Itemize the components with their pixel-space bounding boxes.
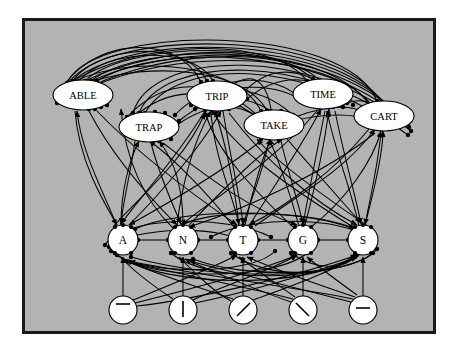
letter-node-label: G bbox=[299, 234, 307, 246]
diagram-panel: ABLE TRAP TRIP TAKE TIME bbox=[22, 18, 436, 334]
letter-node-label: T bbox=[239, 234, 246, 246]
letter-node-g[interactable]: G bbox=[288, 225, 318, 255]
feature-node-horizontal-bar-upper[interactable] bbox=[109, 296, 137, 324]
word-node-label: TAKE bbox=[260, 120, 287, 131]
word-node-time[interactable]: TIME bbox=[293, 79, 353, 109]
letter-node-a[interactable]: A bbox=[108, 225, 138, 255]
interactive-activation-diagram: ABLE TRAP TRIP TAKE TIME bbox=[0, 0, 458, 351]
feature-nodes bbox=[109, 296, 377, 324]
word-node-trap[interactable]: TRAP bbox=[119, 112, 179, 142]
word-node-trip[interactable]: TRIP bbox=[187, 81, 247, 111]
feature-node-back-slash[interactable] bbox=[289, 296, 317, 324]
word-node-label: TIME bbox=[310, 89, 336, 100]
letter-node-label: S bbox=[360, 234, 366, 246]
letter-node-label: A bbox=[119, 234, 128, 246]
feature-node-forward-slash[interactable] bbox=[229, 296, 257, 324]
word-node-able[interactable]: ABLE bbox=[53, 80, 113, 110]
word-node-cart[interactable]: CART bbox=[354, 101, 414, 131]
letter-node-s[interactable]: S bbox=[348, 225, 378, 255]
network-graph: ABLE TRAP TRIP TAKE TIME bbox=[25, 21, 433, 331]
feature-node-vertical-bar[interactable] bbox=[169, 296, 197, 324]
feature-node-horizontal-bar-mid[interactable] bbox=[349, 296, 377, 324]
word-node-label: TRAP bbox=[136, 122, 163, 133]
word-node-take[interactable]: TAKE bbox=[244, 110, 304, 140]
letter-node-label: N bbox=[179, 234, 188, 246]
letter-node-n[interactable]: N bbox=[168, 225, 198, 255]
word-nodes: ABLE TRAP TRIP TAKE TIME bbox=[53, 79, 414, 142]
word-node-label: TRIP bbox=[206, 91, 229, 102]
word-node-label: ABLE bbox=[69, 90, 96, 101]
letter-node-t[interactable]: T bbox=[228, 225, 258, 255]
word-node-label: CART bbox=[370, 111, 398, 122]
